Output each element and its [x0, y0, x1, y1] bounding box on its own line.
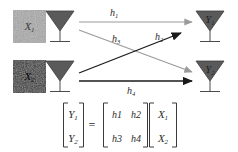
rhs-vector: X1 X2 [150, 103, 177, 147]
tx1-source-box: X1 [13, 10, 46, 43]
matrix-cell-h4: h4 [131, 133, 141, 144]
rx2-antenna-icon: Y2 [196, 61, 224, 92]
channel-matrix-equation: Y1 Y2 = h1 h2 h3 h4 X1 X2 [64, 103, 177, 147]
equation-operator: = [89, 118, 96, 132]
lhs-row-1: Y1 [68, 108, 78, 122]
channel-matrix: h1 h2 h3 h4 [104, 103, 148, 147]
channel-label-h2: h2 [155, 31, 164, 43]
matrix-cell-h1: h1 [112, 109, 122, 120]
rhs-row-2: X2 [157, 132, 169, 146]
mimo-diagram: X1 X2 Y1 Y2 [0, 0, 238, 152]
figure-canvas: X1 X2 Y1 Y2 [0, 0, 238, 152]
matrix-cell-h2: h2 [131, 109, 141, 120]
channel-label-h4: h4 [127, 85, 136, 97]
tx1-antenna-icon [46, 11, 74, 42]
rx1-antenna-icon: Y1 [196, 11, 224, 42]
channel-label-h1: h1 [110, 7, 118, 19]
channel-label-h3: h3 [112, 33, 121, 45]
rhs-row-1: X1 [157, 108, 168, 122]
lhs-row-2: Y2 [68, 132, 78, 146]
lhs-vector: Y1 Y2 [64, 103, 84, 147]
tx2-antenna-icon [46, 61, 74, 92]
channel-arrow-h2 [79, 33, 181, 73]
tx2-source-box: X2 [13, 60, 46, 93]
matrix-cell-h3: h3 [112, 133, 122, 144]
